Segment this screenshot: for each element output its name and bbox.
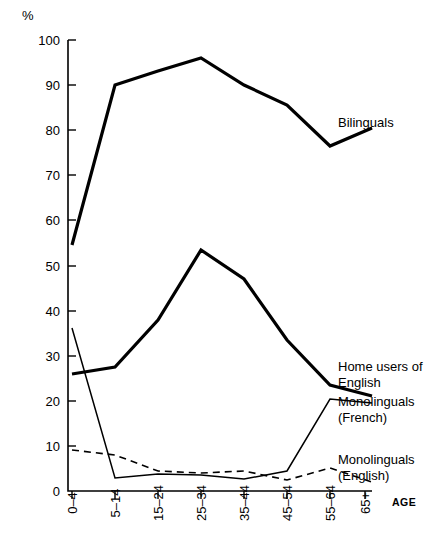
x-tick-45-54: 45–54 bbox=[280, 485, 295, 521]
series-label-bilinguals: Bilinguals bbox=[338, 115, 394, 130]
line-chart-svg: % 100 90 80 70 60 50 40 30 20 10 bbox=[0, 0, 441, 539]
y-axis-tick-labels: 100 90 80 70 60 50 40 30 20 10 0 bbox=[38, 33, 60, 499]
y-tick-20: 20 bbox=[46, 394, 60, 409]
y-tick-0: 0 bbox=[53, 484, 60, 499]
x-tick-15-24: 15–24 bbox=[151, 485, 166, 521]
series-label-home-users-english-line2: English bbox=[338, 375, 381, 390]
axis-lines bbox=[68, 40, 372, 491]
chart-container: % 100 90 80 70 60 50 40 30 20 10 bbox=[0, 0, 441, 539]
x-axis-name-label: AGE bbox=[392, 496, 416, 508]
x-tick-5-14: 5–14 bbox=[108, 489, 123, 518]
series-label-monolinguals-french-line2: (French) bbox=[338, 410, 387, 425]
series-line-bilinguals bbox=[72, 58, 372, 245]
y-tick-30: 30 bbox=[46, 349, 60, 364]
y-tick-40: 40 bbox=[46, 304, 60, 319]
x-tick-25-34: 25–34 bbox=[194, 485, 209, 521]
leader-line-bilinguals bbox=[330, 128, 372, 146]
series-line-home-users-english bbox=[72, 250, 372, 396]
series-label-monolinguals-english-line2: (English) bbox=[338, 468, 389, 483]
x-tick-0-4: 0–4 bbox=[65, 492, 80, 514]
y-tick-100: 100 bbox=[38, 33, 60, 48]
y-tick-10: 10 bbox=[46, 439, 60, 454]
y-tick-60: 60 bbox=[46, 213, 60, 228]
x-tick-55-64: 55–64 bbox=[323, 485, 338, 521]
y-tick-80: 80 bbox=[46, 123, 60, 138]
x-tick-65-plus: 65+ bbox=[358, 492, 373, 514]
series-line-monolinguals-french bbox=[72, 328, 372, 479]
series-label-home-users-english-line1: Home users of bbox=[338, 359, 423, 374]
y-axis-unit-label: % bbox=[22, 8, 34, 23]
series-label-monolinguals-french-line1: Monolinguals bbox=[338, 394, 415, 409]
x-tick-35-44: 35–44 bbox=[237, 485, 252, 521]
y-tick-90: 90 bbox=[46, 78, 60, 93]
series-label-monolinguals-english-line1: Monolinguals bbox=[338, 452, 415, 467]
y-tick-50: 50 bbox=[46, 259, 60, 274]
y-tick-70: 70 bbox=[46, 168, 60, 183]
